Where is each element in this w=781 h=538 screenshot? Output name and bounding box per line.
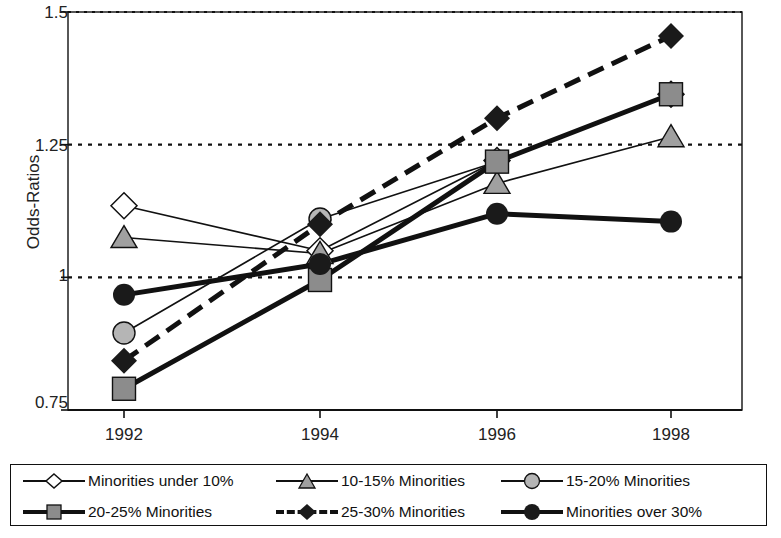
- legend-label: 20-25% Minorities: [88, 503, 212, 521]
- plot-area: [0, 0, 781, 538]
- diamond-open-icon: [23, 471, 85, 491]
- legend-item-10-15-minorities[interactable]: 10-15% Minorities: [276, 465, 465, 496]
- odds-ratios-line-chart: Odds-Ratios 1.5 1.25 1 0.75 1992 1994 19…: [0, 0, 781, 538]
- triangle-gray-icon: [276, 471, 338, 491]
- legend-label: Minorities over 30%: [566, 503, 702, 521]
- circle-black-icon: [501, 502, 563, 522]
- legend-label: 25-30% Minorities: [341, 503, 465, 521]
- legend-item-20-25-minorities[interactable]: 20-25% Minorities: [23, 496, 212, 527]
- legend-item-minorities-under-10[interactable]: Minorities under 10%: [23, 465, 234, 496]
- legend-item-15-20-minorities[interactable]: 15-20% Minorities: [501, 465, 690, 496]
- legend-label: 10-15% Minorities: [341, 472, 465, 490]
- chart-legend: Minorities under 10% 10-15% Minorities 1…: [10, 464, 767, 526]
- legend-label: Minorities under 10%: [88, 472, 234, 490]
- legend-label: 15-20% Minorities: [566, 472, 690, 490]
- circle-gray-icon: [501, 471, 563, 491]
- legend-item-25-30-minorities[interactable]: 25-30% Minorities: [276, 496, 465, 527]
- legend-item-minorities-over-30[interactable]: Minorities over 30%: [501, 496, 702, 527]
- diamond-black-icon: [276, 502, 338, 522]
- square-gray-icon: [23, 502, 85, 522]
